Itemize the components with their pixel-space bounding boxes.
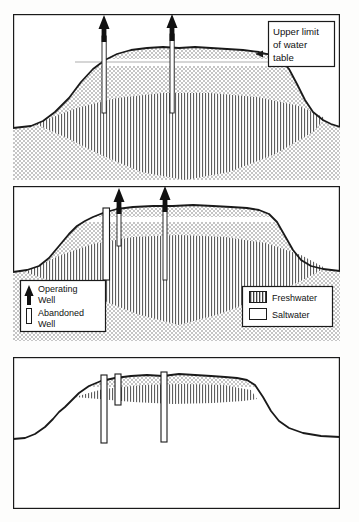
panel-bottom	[13, 357, 340, 509]
water-table-label-line1: Upper limit	[273, 26, 319, 37]
abandoned-well-casing-icon	[101, 375, 107, 443]
water-table-label-line3: table	[273, 52, 294, 63]
water-table-label-line2: of water	[273, 39, 308, 50]
legend-operating-well-line1: Operating	[38, 284, 78, 294]
abandoned-well[interactable]	[103, 208, 110, 280]
water-legend: Freshwater Saltwater	[243, 287, 333, 327]
abandoned-well[interactable]	[161, 372, 167, 442]
figure-root: Upper limit of water table	[0, 0, 359, 522]
well-legend: Operating Well Abandoned Well	[21, 281, 106, 332]
abandoned-well-casing-icon	[27, 309, 32, 324]
abandoned-well-casing-icon	[161, 372, 167, 442]
legend-freshwater-label: Freshwater	[272, 293, 317, 303]
legend-item-saltwater[interactable]: Saltwater	[250, 309, 310, 321]
abandoned-well-casing-icon	[115, 374, 121, 405]
legend-operating-well-line2: Well	[38, 295, 55, 305]
abandoned-well[interactable]	[101, 375, 107, 443]
panel-top: Upper limit of water table	[13, 14, 340, 180]
panel-middle: Operating Well Abandoned Well Freshwater…	[13, 186, 340, 341]
legend-saltwater-label: Saltwater	[272, 310, 310, 320]
water-table-label-box: Upper limit of water table	[269, 22, 335, 67]
abandoned-well[interactable]	[115, 374, 121, 405]
abandoned-well-casing-icon	[103, 208, 110, 280]
saltwater-swatch-icon	[250, 309, 267, 320]
legend-abandoned-well-line1: Abandoned	[38, 308, 84, 318]
legend-abandoned-well-line2: Well	[38, 319, 55, 329]
freshwater-swatch-icon	[250, 292, 267, 303]
legend-item-freshwater[interactable]: Freshwater	[250, 292, 318, 304]
